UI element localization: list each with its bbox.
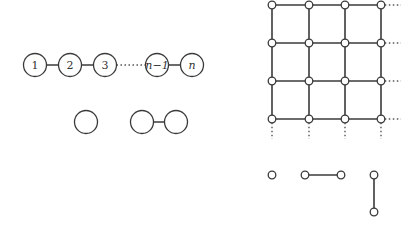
grid-node: [341, 115, 349, 123]
right-small-examples: [268, 171, 378, 216]
vertical-node: [370, 171, 378, 179]
pair-node: [131, 111, 154, 134]
grid-node: [377, 1, 385, 9]
node-label: 3: [102, 59, 109, 72]
left-small-examples: [75, 111, 188, 134]
grid-node: [377, 77, 385, 85]
grid-node: [305, 1, 313, 9]
node-label: n−1: [145, 59, 168, 72]
single-node: [75, 111, 98, 134]
grid-node: [268, 1, 276, 9]
pair-node: [165, 111, 188, 134]
grid-node: [305, 39, 313, 47]
grid-graph: [268, 1, 401, 139]
grid-node: [305, 77, 313, 85]
grid-node: [341, 1, 349, 9]
grid-node: [305, 115, 313, 123]
grid-node: [268, 39, 276, 47]
grid-node: [341, 39, 349, 47]
node-label: 2: [67, 59, 74, 72]
horizontal-node: [337, 171, 345, 179]
grid-node: [268, 77, 276, 85]
vertical-node: [370, 208, 378, 216]
single-node: [268, 171, 276, 179]
node-label: n: [188, 59, 195, 72]
graph-diagram: 123n−1n: [0, 0, 418, 229]
grid-node: [377, 115, 385, 123]
node-label: 1: [32, 59, 39, 72]
grid-node: [341, 77, 349, 85]
horizontal-node: [301, 171, 309, 179]
grid-node: [268, 115, 276, 123]
path-graph: 123n−1n: [24, 54, 204, 77]
grid-node: [377, 39, 385, 47]
